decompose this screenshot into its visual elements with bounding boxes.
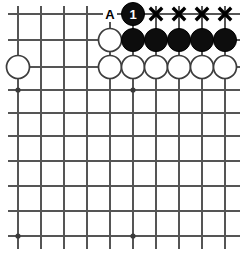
stone-black xyxy=(168,29,191,52)
goban-svg: A 1 xyxy=(0,0,246,253)
stone-disc xyxy=(214,29,237,52)
stone-white xyxy=(99,56,122,79)
go-board-diagram: A 1 xyxy=(0,0,246,253)
stone-move-number: 1 xyxy=(129,7,136,22)
stone-disc xyxy=(145,29,168,52)
stone-disc xyxy=(145,56,168,79)
stone-white xyxy=(122,56,145,79)
stone-disc xyxy=(168,56,191,79)
stone-white xyxy=(99,29,122,52)
stone-disc xyxy=(99,56,122,79)
stone-disc xyxy=(214,56,237,79)
stone-disc xyxy=(122,56,145,79)
stone-white xyxy=(168,56,191,79)
star-points xyxy=(15,87,135,238)
stone-disc xyxy=(99,29,122,52)
stone-white xyxy=(145,56,168,79)
point-labels: A xyxy=(103,6,117,22)
stone-black xyxy=(191,29,214,52)
stone-disc xyxy=(122,29,145,52)
stone-white xyxy=(7,56,30,79)
star-point xyxy=(15,87,20,92)
stone-black xyxy=(214,29,237,52)
stone-disc xyxy=(168,29,191,52)
point-label-text: A xyxy=(105,7,115,22)
stone-white xyxy=(191,56,214,79)
stone-black xyxy=(122,29,145,52)
stone-disc xyxy=(7,56,30,79)
stone-disc xyxy=(191,56,214,79)
stone-black xyxy=(145,29,168,52)
stone-white xyxy=(214,56,237,79)
stone-disc xyxy=(191,29,214,52)
stone-black: 1 xyxy=(122,3,145,26)
star-point xyxy=(130,87,135,92)
star-point xyxy=(15,233,20,238)
star-point xyxy=(130,233,135,238)
